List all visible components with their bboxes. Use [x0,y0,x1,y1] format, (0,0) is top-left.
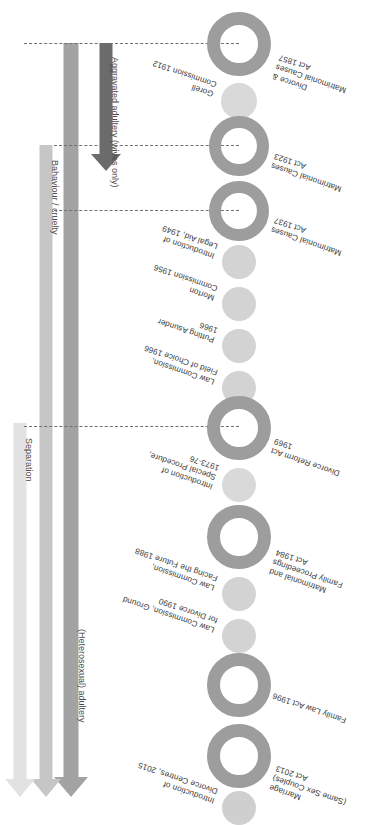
node-divorce-matrimonial-causes-act-1857[interactable] [207,12,271,76]
node-introduction-special-procedure-1973-76[interactable] [222,468,256,502]
node-law-commission-facing-the-future-1988[interactable] [222,577,256,611]
label-gorell-commission-1912: Gorell Commission 1912 [112,45,218,98]
label-matrimonial-causes-act-1937: Matrimonial Causes Act 1937 [270,215,369,266]
node-marriage-same-sex-couples-act-2013[interactable] [207,724,271,788]
node-putting-asunder-1966[interactable] [222,329,256,363]
node-family-law-act-1996[interactable] [207,653,271,717]
arrow-shaft-behaviour-cruelty [40,145,53,781]
arrow-head-separation [5,779,35,797]
node-matrimonial-causes-act-1937[interactable] [209,181,269,241]
label-introduction-special-procedure-1973-76: Introduction of Special Procedure, 1973-… [116,429,221,490]
label-divorce-reform-act-1969: Divorce Reform Act 1969 [270,436,371,488]
arrow-head-behaviour-cruelty [31,779,61,797]
arrow-label-separation: Separation [24,438,34,482]
arrow-label-behaviour-cruelty: Bahaviour / cruelty [50,160,60,235]
label-marriage-same-sex-couples-act-2013: Marriage (Same Sex Couples) Act 2013 [268,762,373,823]
node-gorell-commission-1912[interactable] [221,83,257,119]
node-divorce-reform-act-1969[interactable] [207,396,271,460]
label-introduction-divorce-centres-2015: Introduction of Divorce Centres, 2015 [109,751,220,806]
arrow-label-heterosexual-adultery: (Heterosexual) adultery [77,629,87,723]
node-morton-commission-1956[interactable] [222,287,256,321]
label-divorce-matrimonial-causes-act-1857: Divorce & Matrimonial Causes Act 1857 [271,51,379,114]
node-introduction-legal-aid-1949[interactable] [222,245,256,279]
node-matrimonial-causes-act-1923[interactable] [209,116,269,176]
label-matrimonial-family-proceedings-act-1984: Matrimonial and Family Proceedings Act 1… [268,546,374,608]
arrow-behaviour-cruelty [31,145,61,797]
node-matrimonial-family-proceedings-act-1984[interactable] [207,505,271,569]
node-introduction-divorce-centres-2015[interactable] [222,791,256,825]
label-family-law-act-1996: Family Law Act 1996 [271,690,373,734]
label-matrimonial-causes-act-1923: Matrimonial Causes Act 1923 [270,151,369,202]
node-law-commission-ground-for-divorce-1990[interactable] [222,619,256,653]
arrow-label-aggravated-adultery: Aggravated adultery (wives only) [110,57,120,188]
